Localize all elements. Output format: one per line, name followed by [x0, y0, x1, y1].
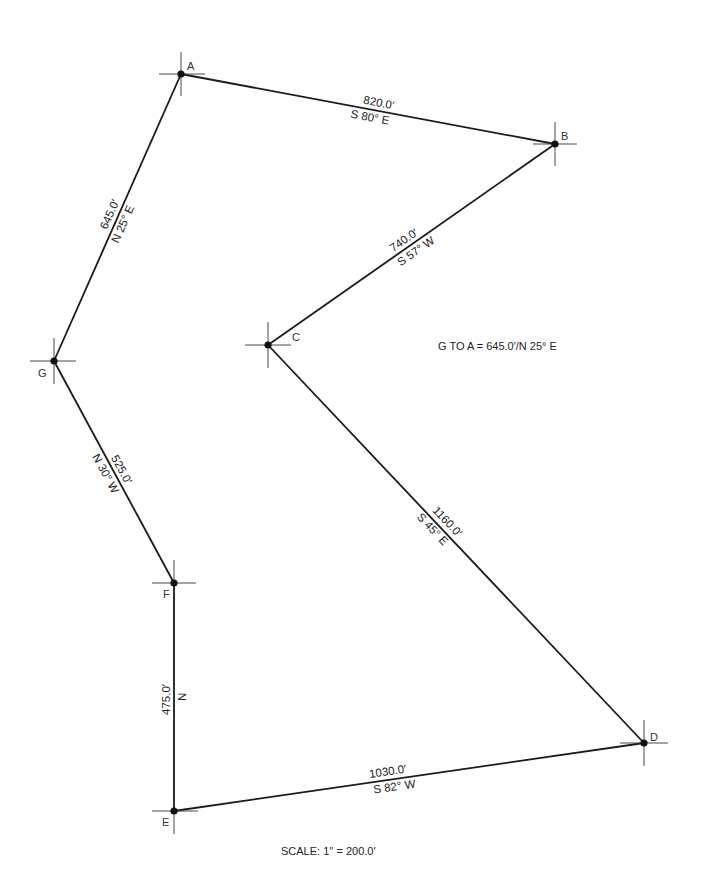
- course-c-d: [268, 345, 644, 743]
- bearing-d-e: S 82° W: [373, 777, 417, 795]
- distance-e-f: 475.0′: [160, 684, 172, 715]
- course-d-e: [174, 743, 644, 811]
- crosshair-e: [152, 797, 198, 834]
- point-d-dot: [640, 739, 647, 746]
- point-f-dot: [170, 579, 177, 586]
- point-label-b: B: [561, 130, 568, 142]
- point-label-g: G: [38, 367, 47, 379]
- scale-label: SCALE: 1′′ = 200.0′: [281, 845, 376, 857]
- traverse-lines: [54, 74, 644, 811]
- point-label-e: E: [162, 816, 169, 828]
- point-a-dot: [177, 70, 184, 77]
- course-g-a: [54, 74, 181, 361]
- course-b-c: [268, 144, 555, 345]
- point-g-dot: [50, 357, 57, 364]
- bearing-a-b: S 80° E: [350, 108, 391, 127]
- traverse-plot: A B C D E F G 820.0′ S 80° E 740.0′ S 57…: [0, 0, 706, 875]
- bearing-e-f: N: [176, 693, 188, 701]
- point-label-f: F: [163, 588, 170, 600]
- course-a-b: [181, 74, 555, 144]
- closing-course-note: G TO A = 645.0′/N 25° E: [438, 340, 557, 352]
- point-c-dot: [264, 341, 271, 348]
- crosshairs: [30, 52, 668, 834]
- point-e-dot: [170, 807, 177, 814]
- point-dots: [50, 70, 647, 814]
- point-label-c: C: [292, 331, 300, 343]
- point-b-dot: [551, 140, 558, 147]
- point-label-d: D: [650, 731, 658, 743]
- point-label-a: A: [187, 60, 195, 72]
- course-f-g: [54, 361, 174, 583]
